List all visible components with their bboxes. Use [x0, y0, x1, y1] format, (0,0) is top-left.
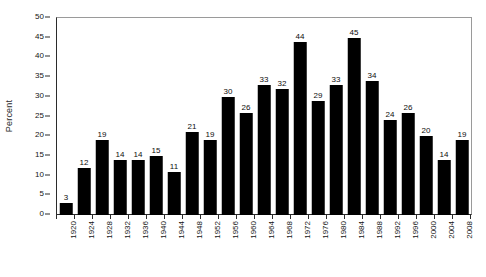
- bar-group: 14: [435, 18, 453, 215]
- x-tick-mark: [380, 215, 381, 219]
- y-tick-mark: [45, 56, 50, 57]
- bar-group: 34: [363, 18, 381, 215]
- y-tick-label: 0: [40, 210, 44, 218]
- y-tick-mark: [45, 95, 50, 96]
- x-tick-mark: [290, 215, 291, 219]
- plot-area: 3121914141511211930263332442933453424262…: [57, 18, 471, 215]
- bar-group: 15: [147, 18, 165, 215]
- y-tick-mark: [45, 17, 50, 18]
- y-tick-label: 15: [35, 151, 44, 159]
- y-tick-label: 35: [35, 72, 44, 80]
- bar-value-label: 24: [386, 110, 395, 119]
- x-tick-mark: [344, 215, 345, 219]
- bar-group: 45: [345, 18, 363, 215]
- x-tick-mark: [398, 215, 399, 219]
- bar-group: 14: [111, 18, 129, 215]
- bar-value-label: 12: [80, 158, 89, 167]
- x-tick-mark: [218, 215, 219, 219]
- y-axis-title-text: Percent: [4, 100, 14, 132]
- y-tick-label: 45: [35, 33, 44, 41]
- bar-value-label: 14: [134, 150, 143, 159]
- y-tick-label: 30: [35, 92, 44, 100]
- x-axis-tick-marks: [56, 215, 472, 220]
- x-axis-tick-labels: 1920192419281932193619401944194819521956…: [56, 221, 472, 273]
- bar-value-label: 32: [278, 79, 287, 88]
- bar-group: 11: [165, 18, 183, 215]
- bar-value-label: 19: [206, 130, 215, 139]
- bar-group: 19: [93, 18, 111, 215]
- x-tick-mark: [434, 215, 435, 219]
- bar-group: 14: [129, 18, 147, 215]
- bar-value-label: 11: [170, 162, 178, 171]
- bar-group: 44: [291, 18, 309, 215]
- bar: [150, 156, 163, 215]
- y-tick-label: 40: [35, 52, 44, 60]
- bar: [348, 38, 361, 215]
- x-tick-label: 2008: [435, 221, 486, 271]
- y-tick-mark: [45, 174, 50, 175]
- x-tick-mark: [74, 215, 75, 219]
- x-tick-mark: [92, 215, 93, 219]
- bar-group: 24: [381, 18, 399, 215]
- bar-group: 3: [57, 18, 75, 215]
- x-tick-mark: [470, 215, 471, 219]
- x-tick-label-text: 2008: [465, 221, 474, 239]
- bar-group: 32: [273, 18, 291, 215]
- x-tick-mark: [362, 215, 363, 219]
- x-tick-mark: [308, 215, 309, 219]
- y-tick-label: 10: [35, 171, 44, 179]
- bar: [330, 85, 343, 215]
- x-tick-mark: [236, 215, 237, 219]
- bar: [276, 89, 289, 215]
- bar-value-label: 33: [332, 75, 341, 84]
- bar: [114, 160, 127, 215]
- x-tick-mark: [326, 215, 327, 219]
- y-tick-mark: [45, 36, 50, 37]
- bar-value-label: 14: [440, 150, 449, 159]
- bar: [78, 168, 91, 215]
- bar: [402, 113, 415, 215]
- y-tick-mark: [45, 135, 50, 136]
- bar-value-label: 45: [350, 28, 359, 37]
- x-tick-mark: [182, 215, 183, 219]
- y-tick-mark: [45, 76, 50, 77]
- bar-value-label: 34: [368, 71, 377, 80]
- x-tick-mark: [146, 215, 147, 219]
- y-tick-label: 20: [35, 131, 44, 139]
- bar-group: 33: [327, 18, 345, 215]
- y-tick-label: 25: [35, 112, 44, 120]
- bar: [168, 172, 181, 215]
- x-tick-mark: [452, 215, 453, 219]
- bar: [240, 113, 253, 215]
- bar: [438, 160, 451, 215]
- bar-group: 29: [309, 18, 327, 215]
- bar-group: 19: [201, 18, 219, 215]
- y-axis-title: Percent: [2, 0, 16, 232]
- bar: [60, 203, 73, 215]
- bar-value-label: 44: [296, 32, 305, 41]
- x-tick-mark: [254, 215, 255, 219]
- y-tick-label: 5: [40, 190, 44, 198]
- y-tick-mark: [45, 154, 50, 155]
- bar-group: 21: [183, 18, 201, 215]
- x-tick-mark: [110, 215, 111, 219]
- bar-group: 12: [75, 18, 93, 215]
- x-tick-mark: [416, 215, 417, 219]
- bar-group: 20: [417, 18, 435, 215]
- x-tick-mark: [200, 215, 201, 219]
- bar-group: 30: [219, 18, 237, 215]
- bar: [96, 140, 109, 215]
- bar-group: 33: [255, 18, 273, 215]
- bar-value-label: 26: [242, 103, 251, 112]
- bar-group: 19: [453, 18, 471, 215]
- x-tick-mark: [128, 215, 129, 219]
- bar-value-label: 29: [314, 91, 323, 100]
- bar: [312, 101, 325, 215]
- y-axis-tick-labels: 05101520253035404550: [20, 17, 50, 215]
- bar: [384, 120, 397, 215]
- y-tick-mark: [45, 115, 50, 116]
- bar: [294, 42, 307, 215]
- bar: [456, 140, 469, 215]
- bar: [258, 85, 271, 215]
- x-tick-mark: [164, 215, 165, 219]
